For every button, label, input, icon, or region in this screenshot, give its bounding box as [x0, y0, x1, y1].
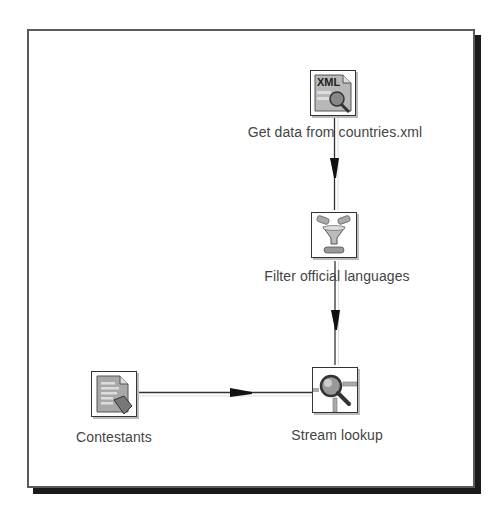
filter-funnel-icon[interactable]	[311, 212, 357, 258]
magnifier-lookup-icon[interactable]	[312, 367, 358, 413]
xml-input-icon[interactable]: XML	[310, 70, 356, 116]
svg-text:XML: XML	[317, 76, 341, 88]
hops-layer	[0, 0, 500, 515]
hop-contestants-to-lookup[interactable]	[137, 388, 312, 397]
step-label: Contestants	[76, 429, 152, 445]
step-label: Filter official languages	[264, 268, 409, 284]
step-label: Stream lookup	[291, 427, 383, 443]
step-label: Get data from countries.xml	[248, 124, 423, 140]
text-file-input-icon[interactable]	[91, 371, 137, 417]
